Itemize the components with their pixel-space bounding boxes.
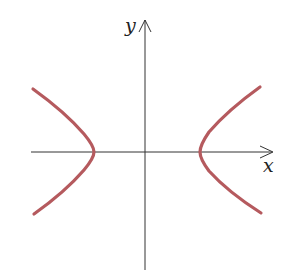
- x-axis: [31, 146, 273, 158]
- x-axis-label: x: [263, 154, 274, 176]
- hyperbola-right-branch: [200, 87, 261, 213]
- y-axis-label: y: [124, 14, 136, 36]
- y-axis: [139, 20, 151, 270]
- hyperbola-graph: y x: [0, 0, 296, 273]
